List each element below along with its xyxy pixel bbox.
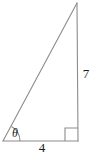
theta-angle-label: θ bbox=[9, 127, 21, 139]
right-angle-marker bbox=[65, 128, 78, 141]
base-length-label: 4 bbox=[36, 141, 48, 154]
right-triangle-figure: 4 7 θ bbox=[0, 0, 95, 157]
vertical-side-line bbox=[77, 3, 78, 141]
vertical-length-label: 7 bbox=[80, 67, 92, 80]
hypotenuse-line bbox=[3, 3, 77, 141]
